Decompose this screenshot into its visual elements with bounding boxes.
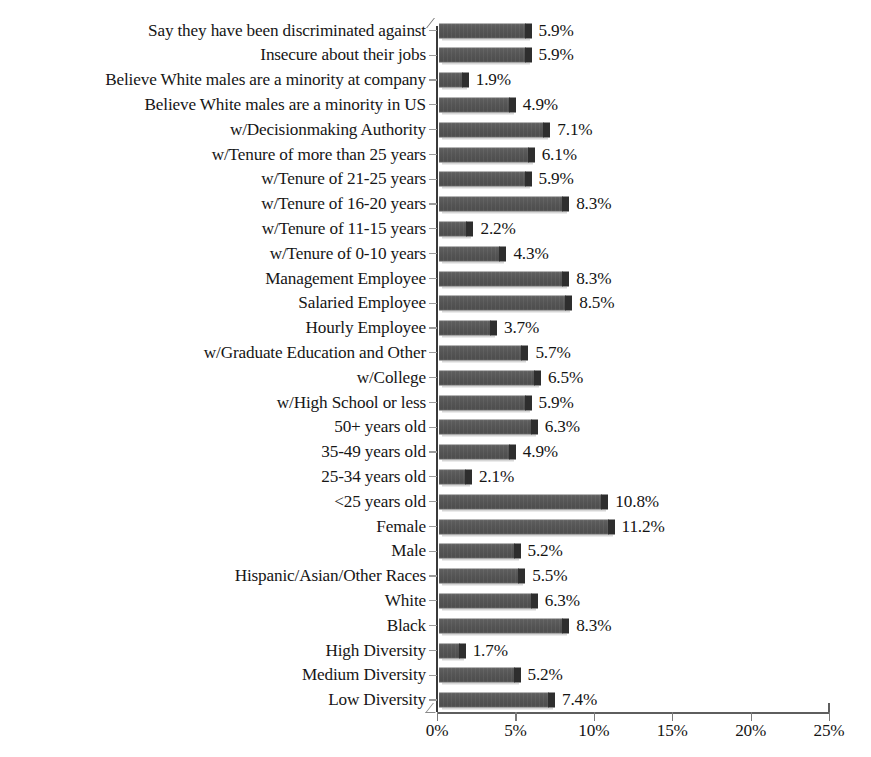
bar-face bbox=[439, 594, 532, 609]
bar[interactable] bbox=[439, 519, 615, 534]
bar[interactable] bbox=[439, 23, 532, 38]
y-axis-tick bbox=[429, 625, 437, 626]
bar-row: White6.3% bbox=[0, 588, 871, 613]
y-axis-tick bbox=[429, 675, 437, 676]
bar-end-cap bbox=[509, 445, 516, 460]
category-label: High Diversity bbox=[325, 642, 426, 659]
y-axis-tick bbox=[429, 303, 437, 304]
bar-value-label: 5.9% bbox=[539, 171, 574, 188]
bar[interactable] bbox=[439, 73, 469, 88]
bar[interactable] bbox=[439, 48, 532, 63]
bar-value-label: 2.2% bbox=[480, 220, 515, 237]
bar-row: Believe White males are a minority in US… bbox=[0, 92, 871, 117]
x-axis-tick-label: 20% bbox=[735, 722, 766, 739]
category-label: 50+ years old bbox=[334, 419, 426, 436]
bar-shadow bbox=[442, 137, 548, 139]
category-label: Male bbox=[391, 543, 426, 560]
bar[interactable] bbox=[439, 172, 532, 187]
bar[interactable] bbox=[439, 246, 506, 261]
bar-shadow bbox=[442, 708, 553, 710]
bar-face bbox=[439, 395, 526, 410]
bar[interactable] bbox=[439, 569, 525, 584]
bar[interactable] bbox=[439, 98, 516, 113]
bar-row: w/Tenure of 11-15 years2.2% bbox=[0, 216, 871, 241]
bar-face bbox=[439, 271, 563, 286]
bar[interactable] bbox=[439, 594, 538, 609]
bar-face bbox=[439, 544, 515, 559]
chart-page: Say they have been discriminated against… bbox=[0, 0, 871, 757]
y-axis-tick bbox=[429, 650, 437, 651]
bar-row: w/Graduate Education and Other5.7% bbox=[0, 340, 871, 365]
bar-shadow bbox=[442, 212, 567, 214]
bar[interactable] bbox=[439, 147, 535, 162]
bar[interactable] bbox=[439, 271, 569, 286]
bar-end-cap bbox=[462, 73, 469, 88]
y-axis-tick bbox=[429, 203, 437, 204]
bar-end-cap bbox=[562, 618, 569, 633]
bar-face bbox=[439, 321, 491, 336]
bar[interactable] bbox=[439, 643, 466, 658]
bar[interactable] bbox=[439, 222, 473, 237]
bar-face bbox=[439, 445, 510, 460]
y-axis-tick bbox=[429, 129, 437, 130]
bar-value-label: 6.5% bbox=[548, 369, 583, 386]
bar[interactable] bbox=[439, 445, 516, 460]
bar[interactable] bbox=[439, 693, 555, 708]
bar[interactable] bbox=[439, 395, 532, 410]
y-axis-tick bbox=[429, 55, 437, 56]
bar-row: <25 years old10.8% bbox=[0, 489, 871, 514]
y-axis-tick bbox=[429, 575, 437, 576]
category-label: w/Tenure of more than 25 years bbox=[212, 146, 426, 163]
bar-face bbox=[439, 668, 515, 683]
bar[interactable] bbox=[439, 346, 528, 361]
y-axis-tick bbox=[429, 179, 437, 180]
y-axis-tick bbox=[429, 600, 437, 601]
bar-row: Say they have been discriminated against… bbox=[0, 18, 871, 43]
bar-value-label: 5.2% bbox=[528, 543, 563, 560]
bar[interactable] bbox=[439, 470, 472, 485]
x-axis-tick bbox=[594, 712, 595, 721]
bar-value-label: 1.9% bbox=[476, 72, 511, 89]
bar-value-label: 3.7% bbox=[504, 320, 539, 337]
y-axis-tick bbox=[429, 526, 437, 527]
bar-shadow bbox=[442, 460, 514, 462]
bar-shadow bbox=[442, 435, 536, 437]
horizontal-bar-chart: Say they have been discriminated against… bbox=[0, 0, 871, 757]
bar-value-label: 8.3% bbox=[576, 617, 611, 634]
bar[interactable] bbox=[439, 370, 541, 385]
bar[interactable] bbox=[439, 321, 497, 336]
bar-shadow bbox=[442, 88, 467, 90]
bar[interactable] bbox=[439, 122, 550, 137]
bar-end-cap bbox=[528, 147, 535, 162]
bar-value-label: 5.7% bbox=[535, 344, 570, 361]
bar-row: w/High School or less5.9% bbox=[0, 390, 871, 415]
bar-shadow bbox=[442, 361, 526, 363]
bar-shadow bbox=[442, 509, 606, 511]
bar-value-label: 4.9% bbox=[523, 96, 558, 113]
bar[interactable] bbox=[439, 618, 569, 633]
bar[interactable] bbox=[439, 420, 538, 435]
category-label: Medium Diversity bbox=[302, 667, 426, 684]
bar-value-label: 8.3% bbox=[576, 196, 611, 213]
category-label: 25-34 years old bbox=[321, 468, 426, 485]
bar[interactable] bbox=[439, 494, 608, 509]
y-axis-tick bbox=[429, 377, 437, 378]
bar[interactable] bbox=[439, 544, 521, 559]
bar-face bbox=[439, 420, 532, 435]
bar[interactable] bbox=[439, 296, 572, 311]
bar[interactable] bbox=[439, 197, 569, 212]
bar-end-cap bbox=[525, 48, 532, 63]
bar-end-cap bbox=[509, 98, 516, 113]
bar-end-cap bbox=[543, 122, 550, 137]
bar-end-cap bbox=[548, 693, 555, 708]
category-label: w/Decisionmaking Authority bbox=[230, 121, 426, 138]
bar-shadow bbox=[442, 113, 514, 115]
bar-value-label: 4.3% bbox=[513, 245, 548, 262]
category-label: Low Diversity bbox=[328, 692, 426, 709]
bar-row: Medium Diversity5.2% bbox=[0, 663, 871, 688]
y-axis-tick bbox=[429, 476, 437, 477]
category-label: Hourly Employee bbox=[306, 320, 426, 337]
category-label: 35-49 years old bbox=[321, 444, 426, 461]
bar-end-cap bbox=[525, 172, 532, 187]
bar[interactable] bbox=[439, 668, 521, 683]
